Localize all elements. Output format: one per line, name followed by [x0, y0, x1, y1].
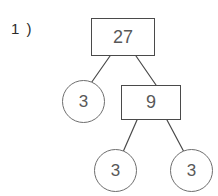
- factor-node-value: 9: [146, 92, 156, 113]
- factor-node-value: 27: [113, 27, 133, 48]
- factor-node-value: 3: [187, 161, 196, 181]
- edge-mid-to-leaf-b: [123, 120, 137, 152]
- factor-node-prime-left: 3: [62, 80, 105, 123]
- problem-number-label: 1 ): [11, 20, 33, 37]
- edge-root-to-mid: [136, 56, 156, 85]
- factor-node-value: 3: [79, 92, 88, 112]
- factor-node-value: 3: [111, 161, 120, 181]
- factor-node-prime-bottom-left: 3: [94, 149, 137, 192]
- factor-node-root-composite: 27: [91, 18, 155, 56]
- factor-tree-canvas: 1 ) 27 3 9 3 3: [0, 0, 218, 196]
- factor-node-prime-bottom-right: 3: [170, 149, 213, 192]
- factor-node-mid-composite: 9: [121, 85, 181, 120]
- edge-mid-to-leaf-c: [167, 120, 184, 152]
